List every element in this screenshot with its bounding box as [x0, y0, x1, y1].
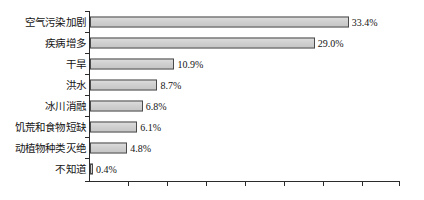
bar-container — [90, 37, 315, 48]
value-label: 33.4% — [349, 16, 378, 27]
bar-row: 空气污染加剧 33.4% — [0, 11, 424, 32]
category-label: 空气污染加剧 — [25, 16, 86, 27]
bar-container — [90, 16, 349, 27]
plot-area: 空气污染加剧 33.4% 疾病增多 29.0% 干旱 10.9% 洪水 — [0, 0, 424, 200]
bar-chart: 空气污染加剧 33.4% 疾病增多 29.0% 干旱 10.9% 洪水 — [0, 0, 424, 200]
bar-row: 干旱 10.9% — [0, 53, 424, 74]
bar-row: 洪水 8.7% — [0, 74, 424, 95]
bar-row: 疾病增多 29.0% — [0, 32, 424, 53]
x-axis-tick — [245, 182, 246, 186]
bar-value — [90, 58, 174, 69]
category-label: 饥荒和食物短缺 — [15, 121, 86, 132]
category-label: 不知道 — [55, 163, 86, 174]
bar-row: 冰川消融 6.8% — [0, 95, 424, 116]
category-label: 干旱 — [66, 58, 86, 69]
category-label: 疾病增多 — [45, 37, 86, 48]
bar-container — [90, 58, 174, 69]
category-label: 洪水 — [66, 79, 86, 90]
bar-container — [90, 79, 157, 90]
bar-value — [90, 79, 157, 90]
bar-row: 饥荒和食物短缺 6.1% — [0, 116, 424, 137]
x-axis-tick — [167, 182, 168, 186]
x-axis-tick — [128, 182, 129, 186]
bar-value — [90, 100, 143, 111]
bar-container — [90, 121, 137, 132]
value-label: 0.4% — [93, 163, 117, 174]
value-label: 8.7% — [157, 79, 181, 90]
bar-value — [90, 16, 349, 27]
value-label: 29.0% — [315, 37, 344, 48]
value-label: 6.8% — [143, 100, 167, 111]
bar-value — [90, 37, 315, 48]
bar-container — [90, 100, 143, 111]
x-axis-tick — [323, 182, 324, 186]
bar-container — [90, 142, 127, 153]
bar-row: 动植物种类灭绝 4.8% — [0, 137, 424, 158]
x-axis-tick — [206, 182, 207, 186]
category-label: 冰川消融 — [45, 100, 86, 111]
value-label: 4.8% — [127, 142, 151, 153]
value-label: 10.9% — [174, 58, 203, 69]
bar-row: 不知道 0.4% — [0, 158, 424, 179]
category-label: 动植物种类灭绝 — [15, 142, 86, 153]
x-axis-tick — [399, 182, 400, 186]
y-axis-tick — [85, 181, 90, 182]
bar-value — [90, 121, 137, 132]
x-axis-tick — [362, 182, 363, 186]
x-axis-tick — [284, 182, 285, 186]
value-label: 6.1% — [137, 121, 161, 132]
bar-value — [90, 142, 127, 153]
